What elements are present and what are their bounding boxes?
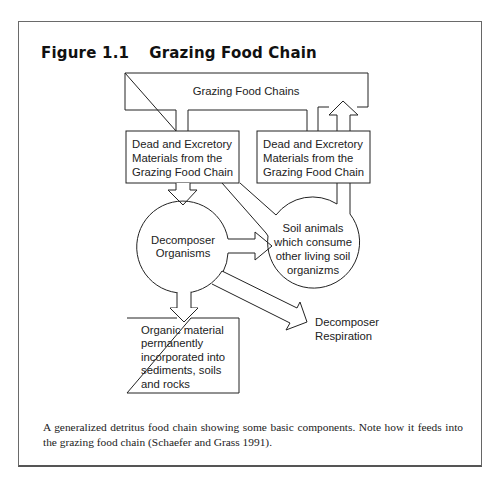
arrow-diagonal-icon bbox=[212, 271, 307, 330]
dead-excretory-left-line1: Dead and Excretory bbox=[132, 138, 232, 150]
node-grazing-food-chains: Grazing Food Chains bbox=[125, 73, 368, 131]
dead-excretory-left-line2: Materials from the bbox=[132, 152, 222, 164]
organic-material-line4: sediments, soils bbox=[141, 364, 222, 376]
node-soil-animals: Soil animals which consume other living … bbox=[266, 197, 360, 288]
node-decomposer-organisms: Decomposer Organisms bbox=[137, 201, 228, 293]
soil-animals-line1: Soil animals bbox=[283, 222, 344, 234]
organic-material-line1: Organic material bbox=[141, 324, 224, 336]
soil-animals-line3: other living soil bbox=[276, 250, 351, 262]
soil-animals-line4: organizms bbox=[287, 264, 339, 276]
figure-caption: A generalized detritus food chain showin… bbox=[43, 420, 463, 450]
grazing-food-chains-label: Grazing Food Chains bbox=[193, 85, 300, 97]
channel-right-box-to-soil-animals bbox=[337, 183, 350, 214]
decomposer-organisms-line2: Organisms bbox=[156, 247, 211, 259]
node-dead-excretory-right: Dead and Excretory Materials from the Gr… bbox=[257, 131, 370, 183]
dead-excretory-right-line2: Materials from the bbox=[263, 152, 353, 164]
dead-excretory-right-line1: Dead and Excretory bbox=[263, 138, 363, 150]
node-organic-material: Organic material permanently incorporate… bbox=[127, 308, 239, 393]
decomposer-organisms-line1: Decomposer bbox=[151, 234, 215, 246]
node-dead-excretory-left: Dead and Excretory Materials from the Gr… bbox=[126, 131, 239, 183]
organic-material-line5: and rocks bbox=[141, 378, 190, 390]
dead-excretory-left-line3: Grazing Food Chain bbox=[132, 166, 233, 178]
channel-left-box-to-soil-animals bbox=[222, 183, 276, 233]
arrow-right-icon bbox=[228, 232, 272, 260]
caption-line-1: A generalized detritus food chain showin… bbox=[43, 420, 463, 435]
grazing-food-chains-outline bbox=[125, 73, 368, 131]
soil-animals-line2: which consume bbox=[273, 236, 352, 248]
arrow-up-icon bbox=[329, 101, 358, 131]
decomposer-respiration-line2: Respiration bbox=[315, 330, 372, 342]
organic-material-line2: permanently bbox=[141, 337, 204, 349]
decomposer-respiration-line1: Decomposer bbox=[315, 316, 379, 328]
organic-material-line3: incorporated into bbox=[141, 351, 225, 363]
caption-line-2: the grazing food chain (Schaefer and Gra… bbox=[43, 435, 463, 450]
dead-excretory-right-line3: Grazing Food Chain bbox=[263, 166, 364, 178]
node-decomposer-respiration: Decomposer Respiration bbox=[315, 316, 379, 342]
